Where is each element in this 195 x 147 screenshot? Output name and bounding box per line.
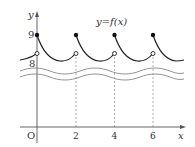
x-axis-label: x (178, 130, 184, 141)
y-tick-9: 9 (28, 29, 34, 40)
x-tick-4: 4 (112, 131, 118, 141)
x-axis (20, 125, 186, 129)
filled-point-x2 (74, 33, 78, 37)
filled-point-x6 (151, 33, 155, 37)
function-curve (20, 35, 184, 61)
x-tick-2: 2 (73, 131, 79, 141)
y-axis-arrow-icon (35, 11, 39, 17)
y-tick-8: 8 (29, 58, 35, 69)
axis-break-lines (20, 68, 184, 80)
x-axis-arrow-icon (180, 125, 186, 129)
x-tick-6: 6 (150, 131, 156, 141)
y-axis-label: y (27, 9, 34, 20)
dashed-guides (76, 53, 153, 127)
filled-points (35, 33, 155, 37)
open-point-x0 (35, 52, 39, 56)
open-points (35, 52, 155, 56)
open-point-x2 (74, 52, 78, 56)
filled-point-x0 (35, 33, 39, 37)
open-point-x4 (113, 52, 117, 56)
function-label: y=f(x) (95, 16, 127, 27)
function-graph: y y=f(x) 9 8 O 2 4 6 x (0, 0, 195, 147)
open-point-x6 (151, 52, 155, 56)
filled-point-x4 (112, 33, 116, 37)
y-axis (35, 11, 39, 143)
origin-label: O (27, 130, 35, 141)
